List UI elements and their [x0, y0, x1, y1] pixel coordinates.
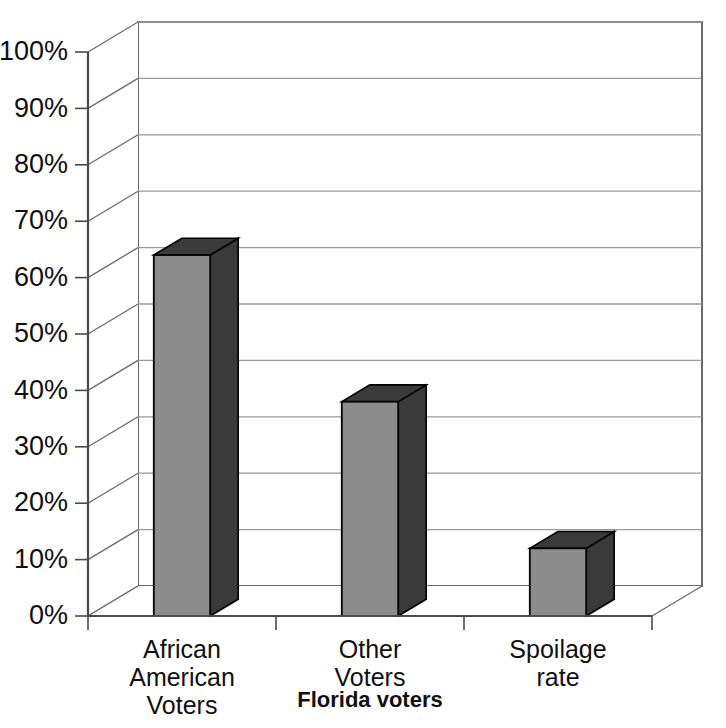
- bar-side-face-1: [210, 238, 238, 616]
- y-tick-label-50%: 50%: [14, 318, 68, 348]
- y-tick-label-70%: 70%: [14, 205, 68, 235]
- bar-side-face-2: [398, 385, 426, 616]
- x-category-line: American: [129, 663, 235, 691]
- bar-3d-3: [530, 532, 614, 616]
- y-tick-label-0%: 0%: [29, 600, 68, 630]
- y-tick-label-80%: 80%: [14, 149, 68, 179]
- x-category-line: African: [143, 635, 221, 663]
- x-category-label-1: AfricanAmericanVoters: [129, 635, 235, 719]
- x-tick-group: [88, 616, 652, 630]
- x-axis-title: Florida voters: [297, 687, 442, 712]
- y-tick-label-100%: 100%: [0, 36, 68, 66]
- bar-chart-3d: 0%10%20%30%40%50%60%70%80%90%100% Africa…: [0, 0, 726, 728]
- y-tick-label-20%: 20%: [14, 487, 68, 517]
- x-category-line: Other: [339, 635, 402, 663]
- y-tick-label-60%: 60%: [14, 262, 68, 292]
- y-tick-label-40%: 40%: [14, 375, 68, 405]
- bar-front-face-1: [154, 255, 210, 616]
- x-category-line: rate: [536, 663, 579, 691]
- x-category-label-2: OtherVoters: [335, 635, 406, 691]
- x-category-line: Voters: [147, 691, 218, 719]
- bar-3d-1: [154, 238, 238, 616]
- y-tick-group: [75, 52, 88, 616]
- y-tick-label-10%: 10%: [14, 544, 68, 574]
- y-tick-label-30%: 30%: [14, 431, 68, 461]
- y-tick-label-group: 0%10%20%30%40%50%60%70%80%90%100%: [0, 36, 68, 630]
- bar-3d-2: [342, 385, 426, 616]
- chart-container: 0%10%20%30%40%50%60%70%80%90%100% Africa…: [0, 0, 726, 728]
- bar-front-face-2: [342, 402, 398, 616]
- x-category-label-3: Spoilagerate: [509, 635, 606, 691]
- bar-front-face-3: [530, 548, 586, 616]
- y-tick-label-90%: 90%: [14, 93, 68, 123]
- x-category-line: Spoilage: [509, 635, 606, 663]
